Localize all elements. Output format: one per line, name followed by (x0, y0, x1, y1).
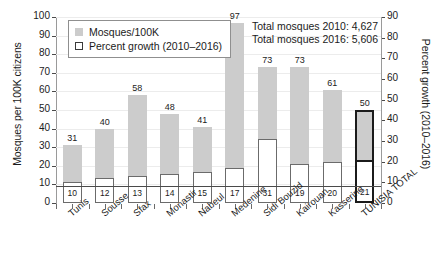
x-axis-minor-tickmark (316, 204, 317, 209)
y-axis-left-tick-label: 100 (10, 10, 50, 21)
x-axis-tick-label[interactable]: Tunis (66, 195, 91, 218)
x-axis-minor-tickmark (251, 204, 252, 209)
x-axis-tick-label[interactable]: Sousse (99, 190, 130, 219)
y-axis-right-tick-label: 60 (387, 72, 427, 83)
totals-annotation-line-2: Total mosques 2016: 5,606 (230, 33, 378, 46)
y-axis-right-tick-label: 90 (387, 10, 427, 21)
legend-item[interactable]: Mosques/100K (75, 25, 222, 39)
legend-swatch-hollow-icon (75, 42, 83, 50)
x-axis-minor-tickmark (349, 204, 350, 209)
x-axis-minor-tickmark (56, 204, 57, 209)
y-axis-left-tick-label: 10 (10, 177, 50, 188)
chart-container: Mosques per 100K citizens Percent growth… (0, 0, 433, 279)
y-axis-left-tick-label: 0 (10, 196, 50, 207)
x-axis-minor-tickmark (154, 204, 155, 209)
x-axis-tick-label[interactable]: Monastir (164, 187, 199, 219)
y-axis-right-tick-label: 50 (387, 93, 427, 104)
y-axis-right-tick-label: 20 (387, 155, 427, 166)
legend-swatch-filled-icon (75, 28, 83, 36)
y-axis-left-tick-label: 70 (10, 66, 50, 77)
legend-item-label: Percent growth (2010–2016) (89, 40, 222, 52)
x-axis-tick-label[interactable]: Kasserine (326, 183, 365, 219)
x-axis-tick-label[interactable]: Sfax (131, 198, 153, 219)
legend-item[interactable]: Percent growth (2010–2016) (75, 39, 222, 53)
y-axis-left-tick-label: 80 (10, 47, 50, 58)
y-axis-left: 0102030405060708090100 (8, 17, 56, 203)
x-axis-minor-tickmark (284, 204, 285, 209)
y-axis-right-tick-label: 0 (387, 196, 427, 207)
x-axis-tick-label[interactable]: Medenine (229, 183, 268, 218)
totals-annotation-line-1: Total mosques 2010: 4,627 (230, 20, 378, 33)
x-axis-minor-tickmark (219, 204, 220, 209)
x-axis-minor-tickmark (381, 204, 382, 209)
x-axis-minor-tickmark (186, 204, 187, 209)
x-axis-minor-tickmark (89, 204, 90, 209)
y-axis-right-tick-label: 70 (387, 51, 427, 62)
y-axis-right-spine (381, 17, 382, 204)
y-axis-left-tick-label: 90 (10, 29, 50, 40)
y-axis-left-tick-label: 20 (10, 159, 50, 170)
y-axis-left-tick-label: 40 (10, 122, 50, 133)
legend-item-label: Mosques/100K (89, 26, 159, 38)
y-axis-left-tick-label: 50 (10, 103, 50, 114)
totals-annotation: Total mosques 2010: 4,627 Total mosques … (230, 20, 378, 46)
y-axis-left-tick-label: 60 (10, 84, 50, 95)
x-axis-minor-tickmark (121, 204, 122, 209)
y-axis-right-tick-label: 30 (387, 134, 427, 145)
x-axis-tick-label[interactable]: Nabeul (196, 191, 226, 219)
y-axis-right-tick-label: 40 (387, 113, 427, 124)
y-axis-right-tick-label: 80 (387, 31, 427, 42)
legend: Mosques/100KPercent growth (2010–2016) (68, 20, 231, 58)
y-axis-left-tick-label: 30 (10, 140, 50, 151)
